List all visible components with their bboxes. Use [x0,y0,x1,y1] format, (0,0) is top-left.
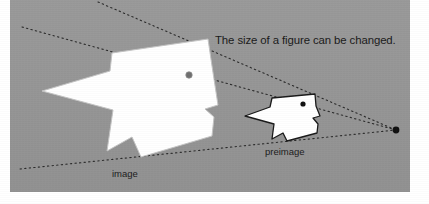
image-fish-shape [42,39,218,157]
preimage-eye-point [300,101,305,106]
diagram-canvas: The size of a figure can be changed. ima… [0,0,429,204]
image-eye-point [186,72,192,78]
label-image: image [112,169,138,179]
caption-text: The size of a figure can be changed. [215,35,396,46]
preimage-fish-shape [245,94,320,141]
center-of-dilation-point [393,127,400,134]
dilation-diagram [0,0,429,204]
label-preimage: preimage [265,147,305,157]
